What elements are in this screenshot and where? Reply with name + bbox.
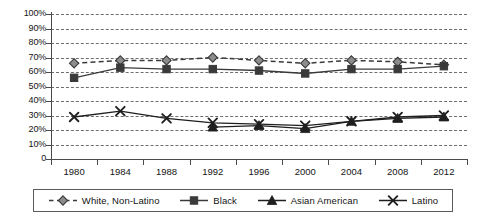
x-axis-tick-label: 2000 bbox=[282, 167, 328, 177]
y-axis-line bbox=[51, 12, 52, 161]
y-axis-tick-label: 90% bbox=[2, 24, 46, 33]
x-axis-tick-label: 2012 bbox=[421, 167, 467, 177]
y-axis-tick-mark bbox=[46, 72, 51, 73]
gridline bbox=[51, 130, 467, 131]
y-axis-tick-label: 100% bbox=[2, 9, 46, 18]
x-axis-tick-label: 1996 bbox=[236, 167, 282, 177]
plot-area bbox=[51, 14, 467, 159]
y-axis-tick-mark bbox=[46, 29, 51, 30]
x-axis-tick-mark bbox=[467, 159, 468, 165]
x-axis-tick-mark bbox=[282, 159, 283, 165]
gridline bbox=[51, 43, 467, 44]
y-axis-tick-label: 80% bbox=[2, 38, 46, 47]
x-axis-tick-mark bbox=[51, 159, 52, 165]
square-marker-icon bbox=[179, 195, 209, 206]
x-axis-tick-label: 1980 bbox=[51, 167, 97, 177]
y-axis-tick-mark bbox=[46, 58, 51, 59]
x-axis-tick-label: 2004 bbox=[328, 167, 374, 177]
square-marker-icon bbox=[191, 197, 198, 204]
legend-item-asian-american[interactable]: Asian American bbox=[257, 195, 358, 206]
x-axis-tick-mark bbox=[236, 159, 237, 165]
y-axis-tick-label: 60% bbox=[2, 67, 46, 76]
y-axis-tick-mark bbox=[46, 130, 51, 131]
gridline bbox=[51, 145, 467, 146]
legend-item-white-non-latino[interactable]: White, Non-Latino bbox=[48, 195, 160, 206]
y-axis-tick-label: 20% bbox=[2, 125, 46, 134]
x-axis-tick-mark bbox=[190, 159, 191, 165]
legend-item-label: Asian American bbox=[291, 196, 358, 206]
y-axis-tick-label: 0 bbox=[2, 154, 46, 163]
triangle-marker-icon bbox=[257, 195, 287, 206]
x-axis-tick-label: 1984 bbox=[97, 167, 143, 177]
diamond-marker-icon bbox=[48, 195, 78, 206]
x-axis-tick-mark bbox=[328, 159, 329, 165]
x-axis-tick-mark bbox=[143, 159, 144, 165]
x-axis-tick-label: 1988 bbox=[144, 167, 190, 177]
x-marker-icon bbox=[378, 195, 408, 206]
chart-container: 010%20%30%40%50%60%70%80%90%100% 1980198… bbox=[0, 0, 494, 222]
diamond-marker-icon bbox=[58, 196, 67, 205]
y-axis-tick-mark bbox=[46, 14, 51, 15]
y-axis-tick-mark bbox=[46, 101, 51, 102]
x-axis-tick-label: 1992 bbox=[190, 167, 236, 177]
legend-item-label: White, Non-Latino bbox=[82, 196, 160, 206]
legend-item-black[interactable]: Black bbox=[179, 195, 237, 206]
legend-item-label: Black bbox=[213, 196, 237, 206]
y-axis-tick-label: 70% bbox=[2, 53, 46, 62]
x-axis-tick-mark bbox=[421, 159, 422, 165]
gridline bbox=[51, 116, 467, 117]
y-axis-tick-mark bbox=[46, 159, 51, 160]
chart-legend: White, Non-LatinoBlackAsian AmericanLati… bbox=[33, 189, 453, 212]
gridline bbox=[51, 14, 467, 15]
y-axis-tick-label: 40% bbox=[2, 96, 46, 105]
gridline bbox=[51, 58, 467, 59]
y-axis-tick-label: 10% bbox=[2, 140, 46, 149]
legend-item-label: Latino bbox=[412, 196, 438, 206]
x-axis-tick-label: 2008 bbox=[375, 167, 421, 177]
x-axis-line bbox=[51, 159, 468, 160]
y-axis-tick-label: 50% bbox=[2, 82, 46, 91]
gridline bbox=[51, 72, 467, 73]
legend-item-latino[interactable]: Latino bbox=[378, 195, 438, 206]
y-axis-tick-mark bbox=[46, 43, 51, 44]
gridline bbox=[51, 29, 467, 30]
gridline bbox=[51, 101, 467, 102]
y-axis-tick-mark bbox=[46, 87, 51, 88]
y-axis-tick-label: 30% bbox=[2, 111, 46, 120]
x-axis-tick-mark bbox=[97, 159, 98, 165]
x-axis-tick-mark bbox=[375, 159, 376, 165]
y-axis-tick-mark bbox=[46, 145, 51, 146]
y-axis-tick-mark bbox=[46, 116, 51, 117]
gridline bbox=[51, 87, 467, 88]
